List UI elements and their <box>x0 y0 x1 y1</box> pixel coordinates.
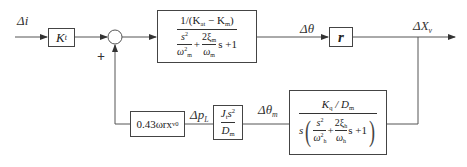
block-valve-tf: 1/(Kat − Km) s2 ω2m + 2ξm ωm s +1 <box>157 10 257 63</box>
block-jt: Jts2 Dm <box>213 105 243 140</box>
block-r: r <box>329 27 353 47</box>
feedback-down-line <box>387 37 418 124</box>
signal-label-theta: Δθ <box>300 22 314 35</box>
block-motor-tf: Kq / Dm s ( s2 ω2h + 2ξh ωh s +1 ) <box>289 90 387 155</box>
signal-label-output: ΔXv <box>413 19 432 32</box>
sum-sign-plus: + <box>97 50 105 64</box>
signal-label-theta-m: Δθm <box>258 103 278 116</box>
signal-label-input: Δi <box>17 14 28 27</box>
block-gain: 0.43ωrxv0 <box>130 111 185 137</box>
block-kt: Kt <box>48 28 75 47</box>
feedback-up-line <box>115 45 130 124</box>
block-diagram: Δi + Δθ ΔXv Δθm ΔpL Kt 1/(Kat − Km) s2 ω… <box>0 0 467 167</box>
signal-label-p-l: ΔpL <box>190 108 208 121</box>
summing-junction <box>108 30 122 44</box>
